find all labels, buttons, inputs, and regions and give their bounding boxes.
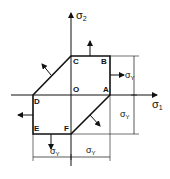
- point-a-label: A: [103, 86, 109, 94]
- normal-arrow-af: [90, 115, 100, 126]
- sigma-y-label-right-dim: σY: [120, 110, 130, 120]
- yield-surface-diagram: [0, 0, 170, 179]
- point-d-label: D: [34, 98, 40, 106]
- point-o-label: O: [73, 86, 79, 94]
- sigma1-label: σ1: [152, 99, 163, 111]
- point-b-label: B: [101, 58, 107, 66]
- sigma-y-label-bottom-right: σY: [86, 146, 96, 156]
- normal-arrow-dc: [42, 64, 51, 75]
- sigma-y-label-right-arrow: σY: [125, 71, 135, 81]
- sigma2-label: σ2: [76, 10, 87, 22]
- point-c-label: C: [73, 58, 79, 66]
- point-e-label: E: [34, 125, 39, 133]
- sigma-y-label-bottom-left: σY: [50, 147, 60, 157]
- point-f-label: F: [64, 125, 69, 133]
